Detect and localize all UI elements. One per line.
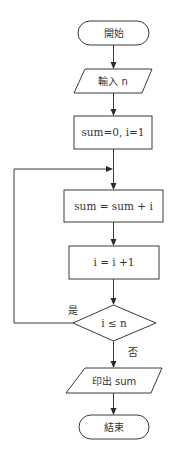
edge-start-input bbox=[111, 45, 117, 69]
start-node: 開始 bbox=[78, 21, 149, 45]
edge-accumulate-increment bbox=[111, 222, 117, 246]
yes-label: 是 bbox=[68, 305, 78, 316]
init-label: sum=0, i=1 bbox=[81, 126, 144, 138]
increment-node: i = i +1 bbox=[69, 246, 159, 279]
input-label: 輸入 n bbox=[98, 75, 128, 87]
edge-output-end bbox=[111, 393, 117, 415]
output-node: 印出 sum bbox=[66, 368, 162, 393]
flowchart: 開始 輸入 n sum=0, i=1 sum = sum + i i = i +… bbox=[0, 0, 174, 457]
output-label: 印出 sum bbox=[92, 375, 136, 387]
start-label: 開始 bbox=[104, 27, 124, 39]
condition-label: i ≤ n bbox=[101, 317, 127, 329]
no-label: 否 bbox=[128, 347, 138, 358]
init-node: sum=0, i=1 bbox=[74, 116, 152, 149]
edge-input-init bbox=[111, 93, 117, 116]
edge-condition-output bbox=[111, 341, 117, 368]
accumulate-label: sum = sum + i bbox=[74, 200, 153, 212]
increment-label: i = i +1 bbox=[93, 256, 134, 268]
condition-node: i ≤ n bbox=[73, 305, 156, 341]
input-node: 輸入 n bbox=[74, 69, 152, 93]
edge-increment-condition bbox=[111, 279, 117, 305]
end-label: 結束 bbox=[104, 421, 124, 433]
accumulate-node: sum = sum + i bbox=[64, 190, 163, 222]
end-node: 結束 bbox=[79, 415, 149, 439]
